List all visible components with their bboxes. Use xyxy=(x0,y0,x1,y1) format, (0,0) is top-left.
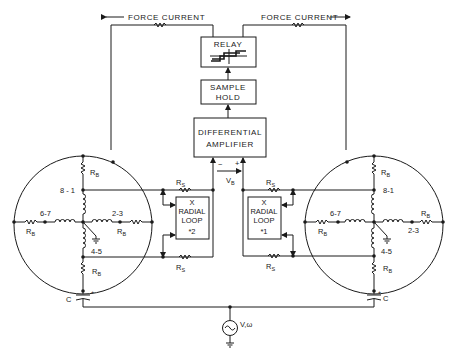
node-8-1-label: 8-1 xyxy=(383,186,394,195)
ground-icon xyxy=(226,343,234,347)
radial-loop-1-block: X RADIAL LOOP *1 xyxy=(248,197,281,239)
excitation-source: V,ω xyxy=(83,305,374,347)
radial-loop-1-line2: RADIAL xyxy=(250,207,277,216)
node-2-3-label: 2-3 xyxy=(112,209,123,218)
capacitor-icon xyxy=(76,295,90,307)
capacitor-icon xyxy=(367,295,381,307)
capacitor-label: C xyxy=(383,294,389,303)
rb-label: RB xyxy=(421,209,430,219)
rb-label: RB xyxy=(117,227,126,237)
inductor-icon xyxy=(55,220,75,223)
inductor-icon xyxy=(83,228,86,248)
inductor-icon xyxy=(92,220,112,223)
resistor-icon xyxy=(81,262,85,274)
radial-loop-1-number: *1 xyxy=(260,227,267,236)
rb-label: RB xyxy=(318,227,327,237)
resistor-icon xyxy=(372,162,376,174)
capacitor-plus: + xyxy=(91,289,94,295)
ground-icon xyxy=(383,239,391,243)
resistor-icon xyxy=(316,220,328,224)
schematic-diagram: FORCE CURRENT FORCE CURRENT RELAY SAMPLE… xyxy=(0,0,457,364)
vb-label: VB xyxy=(226,176,235,186)
resistor-icon xyxy=(130,220,142,224)
resistor-icon xyxy=(420,220,432,224)
radial-loop-2-line2: RADIAL xyxy=(178,207,205,216)
radial-loop-2-line3: LOOP xyxy=(182,216,203,225)
node-6-7-label: 6-7 xyxy=(330,209,341,218)
plus-sign: + xyxy=(235,159,240,168)
rb-label: RB xyxy=(90,168,99,178)
radial-loop-2-number: *2 xyxy=(188,227,195,236)
radial-loop-2-x: X xyxy=(189,198,194,207)
node-4-5-label: 4-5 xyxy=(91,247,102,256)
minus-sign: − xyxy=(218,160,223,169)
inductor-icon xyxy=(372,194,375,214)
node-2-3-label: 2-3 xyxy=(408,226,419,235)
capacitor-label: C xyxy=(66,295,72,304)
rs-label: RS xyxy=(266,178,275,188)
diff-amp-line1: DIFFERENTIAL xyxy=(198,128,262,137)
resistor-icon xyxy=(25,220,37,224)
sample-hold-line1: SAMPLE xyxy=(210,83,246,92)
schematic-svg: FORCE CURRENT FORCE CURRENT RELAY SAMPLE… xyxy=(0,0,457,364)
force-current-left-label: FORCE CURRENT xyxy=(128,13,205,22)
ground-icon xyxy=(92,239,100,243)
radial-loop-1-x: X xyxy=(261,198,266,207)
capacitor-plus: + xyxy=(378,289,381,295)
node-6-7-label: 6-7 xyxy=(40,209,51,218)
sample-hold-line2: HOLD xyxy=(216,93,241,102)
node-8-1-label: 8 - 1 xyxy=(60,186,75,195)
resistor-icon xyxy=(372,262,376,274)
right-bridge: RB 8-1 6-7 2-3 RB RB 4-5 RB + C xyxy=(303,154,445,307)
relay-label: RELAY xyxy=(214,40,243,49)
rs-label: RS xyxy=(176,178,185,188)
diff-amp-line2: AMPLIFIER xyxy=(206,140,254,149)
node-4-5-label: 4-5 xyxy=(381,247,392,256)
rs-label: RS xyxy=(176,263,185,273)
resistor-icon xyxy=(81,162,85,174)
inductor-icon xyxy=(372,228,375,248)
force-current-right-label: FORCE CURRENT xyxy=(261,13,338,22)
sample-hold-block: SAMPLE HOLD xyxy=(201,80,256,104)
rs-label: RS xyxy=(266,262,275,272)
rb-label: RB xyxy=(92,267,101,277)
rb-label: RB xyxy=(381,168,390,178)
radial-loop-2-block: X RADIAL LOOP *2 xyxy=(176,197,209,239)
inductor-icon xyxy=(83,194,86,214)
rb-label: RB xyxy=(26,227,35,237)
differential-amplifier-block: DIFFERENTIAL AMPLIFIER xyxy=(194,118,266,157)
radial-loop-1-line3: LOOP xyxy=(254,216,275,225)
left-bridge: RB 8 - 1 6-7 2-3 RB RB 4-5 RB C + xyxy=(12,154,154,307)
inductor-icon xyxy=(383,220,403,223)
rb-label: RB xyxy=(383,264,392,274)
relay-block: RELAY xyxy=(201,37,256,67)
source-label: V,ω xyxy=(240,320,252,329)
inductor-icon xyxy=(345,220,365,223)
